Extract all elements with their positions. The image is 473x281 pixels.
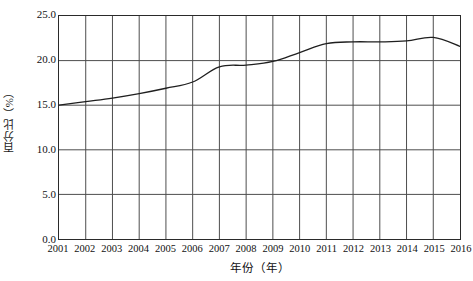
x-axis-tick-label: 2015 [421,243,447,256]
x-axis-tick-label: 2014 [394,243,420,256]
x-axis-tick-label: 2006 [179,243,205,256]
x-axis-tick-label: 2009 [260,243,286,256]
line-chart-figure: 百分比（%） 0.05.010.015.020.025.0 2001200220… [0,0,473,281]
x-axis-tick-label: 2005 [152,243,178,256]
x-axis-tick-label: 2001 [45,243,71,256]
x-axis-tick-label: 2007 [206,243,232,256]
series-path [59,37,460,105]
y-axis-tick-label: 15.0 [20,99,56,110]
data-series-line [59,16,460,239]
x-axis-tick-label: 2016 [448,243,473,256]
x-axis-tick-label: 2010 [287,243,313,256]
y-axis-tick-label: 5.0 [20,189,56,200]
x-axis-tick-labels: 2001200220032004200520062007200820092010… [58,243,461,259]
x-axis-tick-label: 2011 [314,243,340,256]
y-axis-tick-label: 25.0 [20,9,56,20]
x-axis-tick-label: 2003 [99,243,125,256]
y-axis-tick-labels: 0.05.010.015.020.025.0 [18,0,56,281]
y-axis-title: 百分比（%） [0,0,18,240]
x-axis-tick-label: 2012 [341,243,367,256]
x-axis-tick-label: 2002 [72,243,98,256]
y-axis-title-text: 百分比（%） [1,86,17,153]
x-axis-title: 年份（年） [58,259,461,275]
x-axis-tick-label: 2004 [126,243,152,256]
plot-area [58,15,461,240]
y-axis-tick-label: 10.0 [20,144,56,155]
x-axis-tick-label: 2013 [367,243,393,256]
y-axis-tick-label: 20.0 [20,54,56,65]
x-axis-tick-label: 2008 [233,243,259,256]
